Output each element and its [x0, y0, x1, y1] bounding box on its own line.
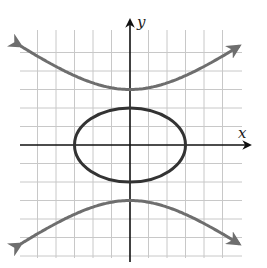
y-axis-label: y [136, 13, 146, 31]
x-axis-label: x [238, 124, 247, 142]
graph: x y [0, 0, 267, 268]
